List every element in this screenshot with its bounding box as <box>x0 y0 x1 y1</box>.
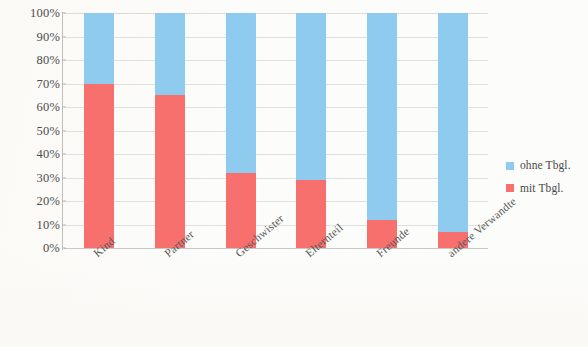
legend-swatch-icon <box>506 162 514 170</box>
y-tick-label: 20% <box>4 195 60 208</box>
bar-slot <box>438 13 468 248</box>
gridline-0% <box>64 248 488 249</box>
gridline-60% <box>64 107 488 108</box>
y-tick-label: 10% <box>4 218 60 231</box>
stacked-bar[interactable] <box>438 13 468 248</box>
x-axis-labels: KindPartnerGeschwisterElternteilFreundea… <box>64 250 524 345</box>
y-tick-label: 80% <box>4 54 60 67</box>
legend-label: mit Tbgl. <box>520 183 564 195</box>
bar-segment-ohne-tbgl[interactable] <box>155 13 185 95</box>
bar-segment-mit-tbgl[interactable] <box>155 95 185 248</box>
y-tick-label: 90% <box>4 30 60 43</box>
stacked-bar[interactable] <box>226 13 256 248</box>
y-tick-label: 30% <box>4 171 60 184</box>
legend-item[interactable]: mit Tbgl. <box>506 183 571 195</box>
y-tick-label: 60% <box>4 101 60 114</box>
stacked-bar[interactable] <box>84 13 114 248</box>
gridline-30% <box>64 178 488 179</box>
gridline-80% <box>64 60 488 61</box>
gridline-100% <box>64 13 488 14</box>
bar-segment-mit-tbgl[interactable] <box>84 84 114 249</box>
y-tick-label: 0% <box>4 242 60 255</box>
chart-legend: ohne Tbgl.mit Tbgl. <box>506 160 571 194</box>
bar-slot <box>84 13 114 248</box>
y-tick-label: 70% <box>4 77 60 90</box>
y-axis-labels: 0%10%20%30%40%50%60%70%80%90%100% <box>0 13 60 248</box>
bar-segment-ohne-tbgl[interactable] <box>84 13 114 84</box>
gridline-70% <box>64 84 488 85</box>
legend-item[interactable]: ohne Tbgl. <box>506 160 571 172</box>
stacked-bar[interactable] <box>155 13 185 248</box>
y-axis-spine <box>62 12 63 250</box>
stacked-bar[interactable] <box>296 13 326 248</box>
y-tick-label: 100% <box>4 7 60 20</box>
legend-swatch-icon <box>506 184 514 192</box>
gridline-50% <box>64 131 488 132</box>
y-tick-label: 50% <box>4 124 60 137</box>
bar-slot <box>155 13 185 248</box>
bar-slot <box>367 13 397 248</box>
legend-label: ohne Tbgl. <box>520 160 571 172</box>
y-tick-label: 40% <box>4 148 60 161</box>
bar-segment-ohne-tbgl[interactable] <box>367 13 397 220</box>
bar-segment-ohne-tbgl[interactable] <box>438 13 468 232</box>
gridline-20% <box>64 201 488 202</box>
gridline-40% <box>64 154 488 155</box>
gridline-90% <box>64 37 488 38</box>
bar-segment-ohne-tbgl[interactable] <box>226 13 256 173</box>
stacked-bar[interactable] <box>367 13 397 248</box>
bar-slot <box>226 13 256 248</box>
bar-segment-ohne-tbgl[interactable] <box>296 13 326 180</box>
chart-page: 0%10%20%30%40%50%60%70%80%90%100% KindPa… <box>0 0 588 347</box>
bar-slot <box>296 13 326 248</box>
